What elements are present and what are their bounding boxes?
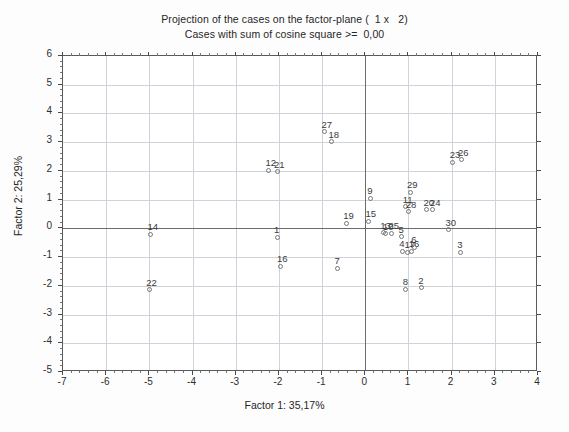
x-axis-minor-tick [88,53,89,56]
x-axis-minor-tick [97,53,98,56]
x-axis-minor-tick [243,371,244,373]
x-axis-minor-tick [459,371,460,373]
x-axis-minor-tick [200,53,201,56]
data-point-label: 30 [445,218,456,228]
y-axis-tick [58,112,62,113]
x-axis-tick [62,52,63,56]
x-axis-minor-tick [502,53,503,56]
y-axis-minor-tick [60,308,62,309]
x-axis-minor-tick [511,371,512,373]
x-axis-tick [148,52,149,56]
y-axis-minor-tick [60,245,62,246]
x-axis-minor-tick [425,371,426,373]
x-axis-minor-tick [295,371,296,373]
x-axis-minor-tick [217,371,218,373]
gridline-horizontal [63,257,536,258]
gridline-horizontal [63,315,536,316]
x-axis-minor-tick [174,53,175,56]
x-axis-minor-tick [433,371,434,373]
x-axis-minor-tick [477,371,478,373]
x-axis-minor-tick [390,53,391,56]
gridline-vertical [106,56,107,370]
y-axis-minor-tick [60,118,62,119]
x-axis-minor-tick [295,53,296,56]
data-point-marker [389,231,394,236]
zero-axis-horizontal [63,228,536,229]
x-axis-tick [494,52,495,56]
x-axis-tick [278,52,279,56]
x-axis-minor-tick [261,53,262,56]
x-axis-minor-tick [433,53,434,56]
x-axis-minor-tick [200,371,201,373]
x-axis-tick [62,371,63,375]
y-axis-tick [58,199,62,200]
x-axis-minor-tick [252,371,253,373]
y-axis-minor-tick [60,193,62,194]
x-axis-minor-tick [287,371,288,373]
x-axis-minor-tick [338,53,339,56]
x-axis-minor-tick [528,53,529,56]
y-axis-minor-tick [60,348,62,349]
x-axis-tick [451,52,452,56]
y-axis-tick [58,256,62,257]
gridline-horizontal [63,343,536,344]
data-point-label: 5 [398,225,403,235]
y-axis-tick [58,227,62,228]
x-axis-minor-tick [390,371,391,373]
data-point-label: 9 [367,186,372,196]
x-axis-title: Factor 1: 35,17% [0,399,569,411]
gridline-horizontal [63,113,536,114]
y-axis-minor-tick [60,262,62,263]
x-axis-minor-tick [131,371,132,373]
y-axis-minor-tick [60,164,62,165]
y-axis-tick [537,371,541,372]
y-axis-tick-label: 6 [22,48,52,59]
x-axis-tick-label: -3 [220,376,250,387]
gridline-vertical [149,56,150,370]
x-axis-tick [407,52,408,56]
x-axis-tick [278,371,279,375]
x-axis-minor-tick [312,53,313,56]
x-axis-minor-tick [140,53,141,56]
y-axis-tick [58,314,62,315]
y-axis-minor-tick [60,319,62,320]
plot-area [62,55,537,371]
y-axis-minor-tick [60,291,62,292]
y-axis-tick-label: 2 [22,163,52,174]
x-axis-tick-label: 4 [522,376,552,387]
x-axis-tick-label: -6 [90,376,120,387]
chart-title: Projection of the cases on the factor-pl… [0,12,569,27]
data-point-marker [458,250,463,255]
x-axis-tick [105,371,106,375]
data-point-label: 16 [277,254,288,264]
y-axis-minor-tick [60,279,62,280]
data-point-marker [148,232,153,237]
x-axis-minor-tick [71,371,72,373]
y-axis-minor-tick [60,153,62,154]
y-axis-tick-label: 3 [22,134,52,145]
y-axis-tick [537,314,541,315]
gridline-vertical [279,56,280,370]
x-axis-tick [321,52,322,56]
data-point-marker [412,245,417,250]
x-axis-minor-tick [373,53,374,56]
x-axis-minor-tick [347,371,348,373]
x-axis-minor-tick [416,53,417,56]
y-axis-tick [537,227,541,228]
y-axis-minor-tick [60,101,62,102]
gridline-horizontal [63,200,536,201]
x-axis-minor-tick [356,53,357,56]
y-axis-minor-tick [60,360,62,361]
x-axis-tick [364,52,365,56]
y-axis-minor-tick [60,72,62,73]
y-axis-minor-tick [60,135,62,136]
x-axis-tick-label: 3 [479,376,509,387]
scatter-plot-figure: Projection of the cases on the factor-pl… [0,0,569,432]
x-axis-tick-label: -2 [263,376,293,387]
y-axis-minor-tick [60,222,62,223]
x-axis-minor-tick [468,371,469,373]
gridline-vertical [495,56,496,370]
data-point-marker [275,169,280,174]
x-axis-minor-tick [459,53,460,56]
x-axis-minor-tick [269,53,270,56]
